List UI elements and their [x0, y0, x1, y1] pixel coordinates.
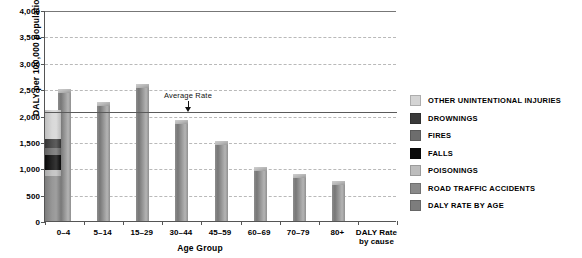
y-axis-tick-mark — [41, 37, 45, 38]
gridline — [45, 37, 396, 38]
average-rate-line — [45, 112, 397, 113]
x-axis-category-label-line1: 70–79 — [287, 228, 310, 237]
legend-swatch — [410, 183, 421, 194]
y-axis-tick-label: 500 — [2, 191, 40, 200]
bar — [293, 174, 306, 221]
bar-cap — [58, 89, 71, 93]
stack-segment — [45, 110, 61, 139]
y-axis-tick-label: 2,000 — [2, 112, 40, 121]
stack-segment — [45, 148, 61, 155]
legend-label: OTHER UNINTENTIONAL INJURIES — [428, 96, 561, 105]
average-rate-arrow — [185, 107, 191, 112]
x-axis-category-label-line1: 0–4 — [57, 228, 71, 237]
bar — [215, 141, 228, 221]
y-axis-tick-labels: 4,0003,5003,0002,5002,0001,5001,0005000 — [0, 0, 40, 258]
x-axis-tick-mark — [358, 221, 359, 225]
x-axis-category-label: 15–29 — [130, 228, 153, 237]
y-axis-tick-label: 1,000 — [2, 165, 40, 174]
x-axis-category-label: 60–69 — [248, 228, 271, 237]
legend-item: DROWNINGS — [410, 110, 582, 128]
bar — [175, 120, 188, 221]
x-axis-tick-mark — [162, 221, 163, 225]
legend-item: FALLS — [410, 145, 582, 163]
bar-cap — [175, 120, 188, 124]
legend-swatch — [410, 113, 421, 124]
x-axis-category-label-line1: 15–29 — [130, 228, 153, 237]
y-axis-tick-mark — [41, 11, 45, 12]
chart-figure: DALY per 100,000 population 4,0003,5003,… — [0, 0, 582, 258]
legend-item: POISONINGS — [410, 162, 582, 180]
plot-area: Average Rate — [44, 11, 396, 222]
bar — [97, 102, 110, 221]
x-axis-category-label-line1: 80+ — [330, 228, 344, 237]
x-axis-tick-mark — [241, 221, 242, 225]
x-axis-category-label: DALY Rateby cause — [356, 228, 397, 246]
legend-swatch — [410, 130, 421, 141]
y-axis-tick-label: 0 — [2, 218, 40, 227]
x-axis-tick-mark — [280, 221, 281, 225]
bar — [254, 167, 267, 221]
y-axis-tick-mark — [41, 64, 45, 65]
bar-cap — [215, 141, 228, 145]
x-axis-tick-mark — [123, 221, 124, 225]
y-axis-tick-label: 4,000 — [2, 7, 40, 16]
stack-segment — [45, 176, 61, 221]
x-axis-category-label-line1: 45–59 — [209, 228, 232, 237]
y-axis-tick-label: 1,500 — [2, 138, 40, 147]
bar-cap — [136, 84, 149, 88]
x-axis-tick-mark — [397, 221, 398, 225]
legend-label: FALLS — [428, 149, 453, 158]
chart-legend: OTHER UNINTENTIONAL INJURIESDROWNINGSFIR… — [410, 92, 582, 215]
x-axis-category-label-line1: 60–69 — [248, 228, 271, 237]
gridline — [45, 90, 396, 91]
x-axis-category-label-line1: DALY Rate — [356, 228, 397, 237]
x-axis-title: Age Group — [44, 243, 356, 253]
x-axis-category-label: 80+ — [330, 228, 344, 237]
x-axis-category-label: 45–59 — [209, 228, 232, 237]
y-axis-tick-mark — [41, 90, 45, 91]
x-axis-tick-mark — [84, 221, 85, 225]
gridline — [45, 64, 396, 65]
legend-label: DALY RATE BY AGE — [428, 201, 504, 210]
stack-segment — [45, 139, 61, 147]
average-rate-label: Average Rate — [164, 91, 212, 100]
x-axis-tick-mark — [201, 221, 202, 225]
legend-swatch — [410, 165, 421, 176]
y-axis-tick-label: 3,000 — [2, 59, 40, 68]
x-axis-tick-mark — [319, 221, 320, 225]
legend-label: POISONINGS — [428, 166, 478, 175]
bar — [136, 84, 149, 221]
gridline — [45, 11, 396, 12]
stack-segment — [45, 170, 61, 176]
bar-cap — [97, 102, 110, 106]
legend-label: ROAD TRAFFIC ACCIDENTS — [428, 184, 535, 193]
x-axis-category-label-line2: by cause — [356, 237, 397, 246]
x-axis-category-label-line1: 5–14 — [94, 228, 112, 237]
stack-segment — [45, 155, 61, 170]
legend-label: DROWNINGS — [428, 114, 478, 123]
legend-swatch — [410, 200, 421, 211]
x-axis-category-label: 5–14 — [94, 228, 112, 237]
bar-cap — [254, 167, 267, 171]
legend-item: ROAD TRAFFIC ACCIDENTS — [410, 180, 582, 198]
x-axis-category-label: 30–44 — [170, 228, 193, 237]
legend-swatch — [410, 148, 421, 159]
y-axis-tick-label: 3,500 — [2, 33, 40, 42]
legend-swatch — [410, 95, 421, 106]
x-axis-category-label: 0–4 — [57, 228, 71, 237]
bar-cap — [332, 181, 345, 185]
legend-item: DALY RATE BY AGE — [410, 197, 582, 215]
legend-label: FIRES — [428, 131, 451, 140]
y-axis-tick-label: 2,500 — [2, 86, 40, 95]
bar — [332, 181, 345, 221]
legend-item: FIRES — [410, 127, 582, 145]
x-axis-category-label: 70–79 — [287, 228, 310, 237]
x-axis-category-label-line1: 30–44 — [170, 228, 193, 237]
bar-cap — [293, 174, 306, 178]
legend-item: OTHER UNINTENTIONAL INJURIES — [410, 92, 582, 110]
x-axis-tick-mark — [45, 221, 46, 225]
